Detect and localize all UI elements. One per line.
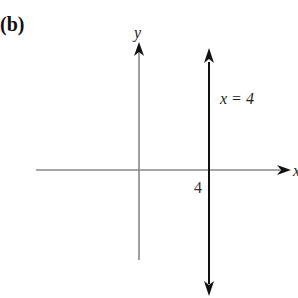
- line-up-arrow-icon: [204, 48, 214, 63]
- y-axis-label: y: [132, 24, 142, 42]
- vertical-line-x-equals-4: [204, 48, 214, 296]
- x-tick-label-4: 4: [194, 179, 202, 196]
- graph-canvas: (b) y x x = 4 4: [0, 0, 298, 298]
- x-axis: [36, 165, 291, 175]
- x-axis-label: x: [292, 162, 298, 179]
- y-axis: [134, 42, 144, 260]
- part-label: (b): [0, 13, 24, 36]
- line-equation-label: x = 4: [219, 90, 254, 107]
